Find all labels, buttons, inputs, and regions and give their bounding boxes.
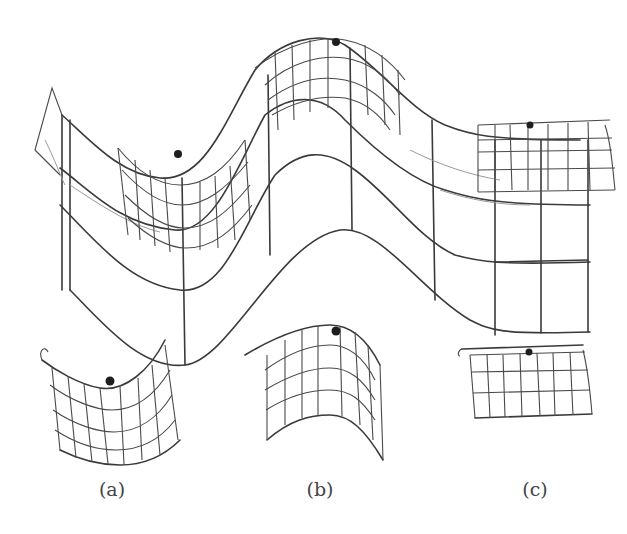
figure: (a) (b) (c)	[0, 0, 627, 534]
main-wave-surface	[35, 38, 615, 365]
main-trough-grid	[118, 140, 252, 252]
patch-b	[245, 325, 383, 460]
main-flat-grid	[478, 120, 615, 192]
patch-a	[41, 340, 180, 465]
label-b: (b)	[307, 478, 334, 500]
main-crest-grid	[255, 38, 405, 135]
patch-c	[458, 345, 592, 418]
label-a: (a)	[99, 478, 125, 500]
wave-surface-diagram	[0, 0, 627, 534]
label-c: (c)	[522, 478, 547, 500]
